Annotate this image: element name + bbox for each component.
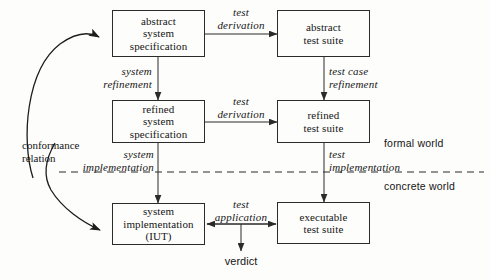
node-label-abstract-system-specification: abstract system specification [130, 15, 188, 53]
label-verdict: verdict [211, 255, 271, 267]
diagram-canvas: abstract system specification abstract t… [0, 0, 490, 280]
edge-label-system-refinement: system refinement [62, 65, 152, 90]
edge-label-test-implementation: test implementation [329, 148, 433, 173]
node-abstract-test-suite[interactable]: abstract test suite [277, 10, 370, 57]
edge-label-test-case-refinement: test case refinement [329, 65, 425, 90]
label-concrete-world: concrete world [384, 180, 455, 192]
node-label-refined-test-suite: refined test suite [304, 109, 344, 134]
node-abstract-system-specification[interactable]: abstract system specification [112, 10, 205, 57]
edge-label-test-application: test application [205, 198, 277, 223]
node-refined-system-specification[interactable]: refined system specification [112, 100, 205, 143]
node-label-abstract-test-suite: abstract test suite [304, 21, 344, 46]
edge-label-test-derivation-top: test derivation [205, 6, 277, 31]
node-label-executable-test-suite: executable test suite [299, 211, 347, 236]
node-label-system-implementation-iut: system implementation (IUT) [123, 205, 193, 243]
node-label-refined-system-specification: refined system specification [130, 103, 188, 141]
edge-label-conformance-relation: conformance relation [22, 139, 108, 164]
node-system-implementation-iut[interactable]: system implementation (IUT) [112, 203, 205, 245]
node-executable-test-suite[interactable]: executable test suite [277, 202, 370, 244]
edge-label-test-derivation-middle: test derivation [205, 95, 277, 120]
label-formal-world: formal world [384, 137, 444, 149]
node-refined-test-suite[interactable]: refined test suite [277, 100, 370, 143]
